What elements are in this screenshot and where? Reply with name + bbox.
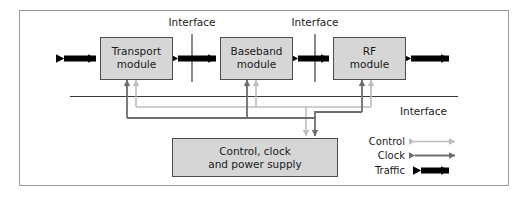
support-block-label-line2: and power supply	[208, 158, 301, 170]
module-transport[interactable]: Transport module	[101, 38, 173, 80]
legend-label-control: Control	[369, 136, 405, 147]
block-diagram-figure: Transport module Baseband module RF modu…	[0, 0, 525, 198]
legend-label-traffic: Traffic	[374, 165, 405, 176]
module-baseband[interactable]: Baseband module	[221, 38, 293, 80]
module-rf-label-line2: module	[350, 58, 389, 70]
module-baseband-label-line2: module	[237, 58, 276, 70]
interface-label-top-left: Interface	[168, 16, 215, 28]
module-transport-label-line2: module	[117, 58, 156, 70]
module-baseband-label-line1: Baseband	[231, 45, 283, 57]
module-transport-label-line1: Transport	[111, 45, 161, 57]
module-rf-label-line1: RF	[363, 45, 376, 57]
support-block-label-line1: Control, clock	[219, 145, 292, 157]
module-rf[interactable]: RF module	[334, 38, 406, 80]
interface-label-bus: Interface	[400, 105, 447, 117]
interface-label-top-right: Interface	[291, 16, 338, 28]
diagram-canvas: Transport module Baseband module RF modu…	[0, 0, 525, 198]
module-control-clock-power[interactable]: Control, clock and power supply	[173, 139, 338, 177]
legend-label-clock: Clock	[378, 150, 405, 161]
